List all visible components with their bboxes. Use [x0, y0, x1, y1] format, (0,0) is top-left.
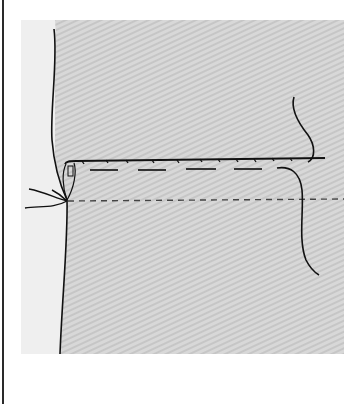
sewing-illustration — [0, 0, 360, 404]
fabric-panel — [55, 20, 344, 354]
